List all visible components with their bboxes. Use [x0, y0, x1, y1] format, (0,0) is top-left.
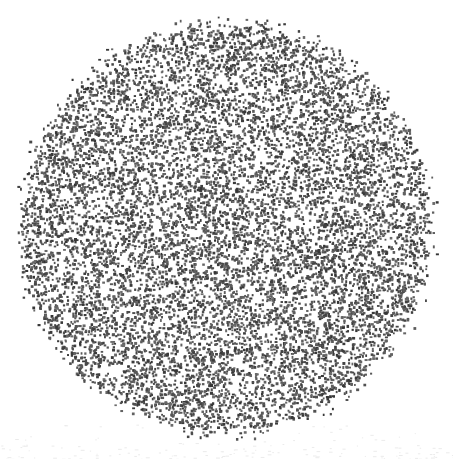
figure-root: A dense field of randomly scattered smal… — [0, 0, 453, 459]
random-dot-circle-canvas — [0, 0, 453, 459]
